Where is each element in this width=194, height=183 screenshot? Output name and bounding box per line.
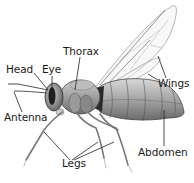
label-thorax: Thorax: [63, 46, 99, 57]
head: [45, 83, 64, 115]
label-eye: Eye: [42, 64, 61, 75]
label-antenna: Antenna: [4, 112, 47, 123]
label-legs: Legs: [62, 158, 86, 169]
thorax: [60, 80, 100, 114]
antennae: [14, 84, 48, 93]
wasp-anatomy-diagram: Head Eye Thorax Wings Antenna Legs Abdom…: [0, 0, 194, 183]
label-abdomen: Abdomen: [138, 147, 188, 158]
label-head: Head: [6, 64, 33, 75]
label-wings: Wings: [158, 78, 189, 89]
